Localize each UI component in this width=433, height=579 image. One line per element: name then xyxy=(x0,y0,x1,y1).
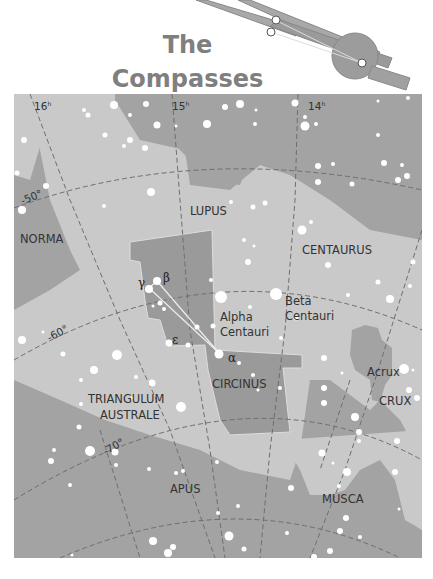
greek-alpha: α xyxy=(228,351,236,365)
greek-gamma: γ xyxy=(138,276,145,290)
constellation-label-australe: AUSTRALE xyxy=(100,408,160,422)
constellation-label-norma: NORMA xyxy=(20,232,64,246)
star-label-alpha-centauri-2: Centauri xyxy=(220,325,269,339)
constellation-label-triangulum: TRIANGULUM xyxy=(87,392,164,406)
star-label-beta-centauri-1: Beta xyxy=(285,294,312,308)
constellation-label-circinus: CIRCINUS xyxy=(212,377,267,391)
compass-icon xyxy=(196,0,410,90)
star-label-beta-centauri-2: Centauri xyxy=(285,309,334,323)
star-label-acrux: Acrux xyxy=(367,365,400,379)
greek-beta: β xyxy=(163,271,170,285)
star-map: -50° -60° -70° 16h 15h 14h NORMA LUPUS C… xyxy=(0,0,433,579)
constellation-label-apus: APUS xyxy=(170,482,201,496)
greek-epsilon: ε xyxy=(172,333,178,347)
constellation-label-centaurus: CENTAURUS xyxy=(302,243,372,257)
constellation-label-musca: MUSCA xyxy=(322,492,364,506)
star-label-alpha-centauri-1: Alpha xyxy=(220,310,253,324)
constellation-label-crux: CRUX xyxy=(379,394,411,408)
constellation-label-lupus: LUPUS xyxy=(190,204,227,218)
